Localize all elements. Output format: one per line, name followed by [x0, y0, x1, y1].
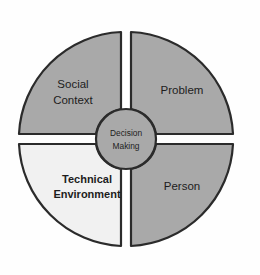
- label-decision-making-line2: Making: [113, 141, 140, 151]
- label-social-context-line1: Social: [57, 78, 88, 90]
- label-social-context-line2: Context: [53, 94, 93, 106]
- label-decision-making-line1: Decision: [110, 128, 142, 138]
- label-problem: Problem: [161, 84, 204, 96]
- center-hub[interactable]: [96, 109, 156, 169]
- label-technical-environment-line1: Technical: [62, 173, 112, 185]
- label-technical-environment-line2: Environment: [53, 188, 121, 200]
- decision-making-diagram: Social Context Problem Technical Environ…: [0, 0, 260, 275]
- wheel-graphic: Social Context Problem Technical Environ…: [0, 0, 260, 275]
- label-person: Person: [164, 180, 200, 192]
